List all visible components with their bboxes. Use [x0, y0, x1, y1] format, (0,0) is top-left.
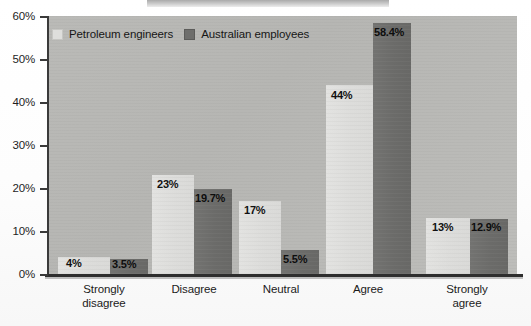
y-axis-label-0: 0% [0, 268, 35, 280]
value-label-australian-strongly-disagree: 3.5% [112, 258, 136, 270]
chart-legend: Petroleum engineers Australian employees [52, 28, 309, 40]
y-axis-label-10: 10% [0, 225, 35, 237]
y-axis-label-30: 30% [0, 139, 35, 151]
value-label-australian-strongly-agree: 12.9% [471, 221, 501, 233]
legend-item-australian-employees: Australian employees [184, 28, 309, 40]
y-axis-tick-10 [40, 231, 48, 233]
y-axis-tick-0 [40, 274, 48, 276]
y-axis-tick-60 [40, 16, 48, 18]
value-label-australian-disagree: 19.7% [195, 192, 225, 204]
x-axis-category-agree: Agree [322, 282, 414, 296]
x-axis-category-strongly-agree: Strongly agree [421, 282, 513, 310]
value-label-petroleum-agree: 44% [331, 89, 352, 101]
legend-label-australian-employees: Australian employees [201, 28, 309, 40]
dark-swatch-icon [184, 29, 195, 40]
y-axis-label-50: 50% [0, 53, 35, 65]
legend-label-petroleum-engineers: Petroleum engineers [69, 28, 173, 40]
y-axis-label-60: 60% [0, 10, 35, 22]
y-axis-label-40: 40% [0, 96, 35, 108]
y-axis-label-20: 20% [0, 182, 35, 194]
y-axis-tick-40 [40, 102, 48, 104]
value-label-petroleum-strongly-disagree: 4% [66, 257, 82, 269]
value-label-petroleum-strongly-agree: 13% [432, 221, 453, 233]
y-axis-tick-50 [40, 59, 48, 61]
x-axis-category-strongly-disagree: Strongly disagree [58, 282, 150, 310]
legend-item-petroleum-engineers: Petroleum engineers [52, 28, 173, 40]
x-axis-line [45, 274, 523, 277]
bar-chart: 0% 10% 20% 30% 40% 50% 60% 4% 3.5% 23% 1… [0, 0, 531, 326]
light-swatch-icon [52, 29, 63, 40]
value-label-petroleum-disagree: 23% [157, 178, 178, 190]
y-axis-tick-20 [40, 188, 48, 190]
bar-petroleum-agree [326, 85, 373, 274]
value-label-australian-neutral: 5.5% [283, 253, 307, 265]
bar-australian-agree [373, 23, 411, 274]
x-axis-category-disagree: Disagree [148, 282, 240, 296]
value-label-petroleum-neutral: 17% [244, 204, 265, 216]
value-label-australian-agree: 58.4% [374, 26, 404, 38]
y-axis-tick-30 [40, 145, 48, 147]
x-axis-category-neutral: Neutral [235, 282, 327, 296]
